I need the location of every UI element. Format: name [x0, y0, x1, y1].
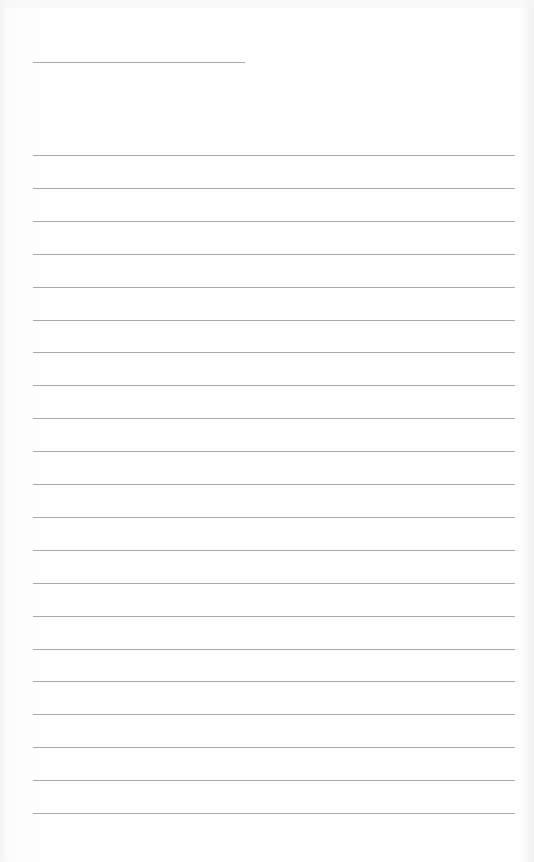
ruled-line: [33, 681, 515, 682]
header-line: [33, 62, 245, 63]
ruled-line: [33, 583, 515, 584]
ruled-line: [33, 484, 515, 485]
ruled-line: [33, 287, 515, 288]
ruled-line: [33, 352, 515, 353]
ruled-line: [33, 813, 515, 814]
ruled-line: [33, 550, 515, 551]
ruled-line: [33, 320, 515, 321]
ruled-line: [33, 254, 515, 255]
ruled-line: [33, 517, 515, 518]
ruled-line: [33, 649, 515, 650]
ruled-line: [33, 780, 515, 781]
ruled-line: [33, 188, 515, 189]
ruled-line: [33, 385, 515, 386]
ruled-line: [33, 616, 515, 617]
ruled-line: [33, 451, 515, 452]
ruled-line: [33, 747, 515, 748]
ruled-line: [33, 714, 515, 715]
ruled-line: [33, 221, 515, 222]
scan-edge-noise: [0, 0, 534, 8]
lined-paper-page: [0, 0, 534, 862]
ruled-line: [33, 418, 515, 419]
ruled-line: [33, 155, 515, 156]
